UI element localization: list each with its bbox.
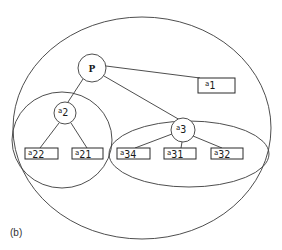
- leaf-a1-index: 1: [209, 80, 215, 91]
- edge-P-a1: [106, 66, 200, 78]
- edge-a2-a22: [40, 123, 59, 148]
- leaf-a22: a22: [25, 148, 58, 160]
- figure-caption: (b): [10, 227, 22, 238]
- edge-a3-a31: [181, 142, 182, 148]
- edge-P-a2: [68, 79, 83, 102]
- leaf-a31-index: 31: [171, 149, 183, 160]
- leaf-a34-index: 34: [124, 149, 136, 160]
- leaf-a31: a31: [164, 148, 196, 160]
- leaf-a32: a32: [211, 148, 243, 160]
- edge-a2-a21: [71, 123, 87, 148]
- node-P-label: P: [89, 64, 96, 74]
- leaf-a22-index: 22: [32, 149, 44, 160]
- edge-a3-a32: [193, 136, 222, 148]
- edge-P-a3: [104, 76, 180, 120]
- node-a3-index: 3: [180, 124, 186, 135]
- edge-a3-a34: [135, 134, 172, 148]
- node-a2-index: 2: [62, 107, 68, 118]
- leaf-a34: a34: [117, 148, 150, 160]
- tree-diagram: P a2 a3 a1 a22 a21 a34 a31 a32 (b): [0, 0, 282, 250]
- leaf-a32-index: 32: [218, 149, 230, 160]
- node-P: P: [78, 54, 106, 82]
- node-a2: a2: [54, 102, 76, 124]
- node-a3: a3: [171, 118, 195, 142]
- leaf-a1: a1: [198, 78, 235, 93]
- leaf-a21-index: 21: [79, 149, 91, 160]
- leaf-a21: a21: [72, 148, 103, 160]
- outer-set-ellipse: [13, 17, 271, 239]
